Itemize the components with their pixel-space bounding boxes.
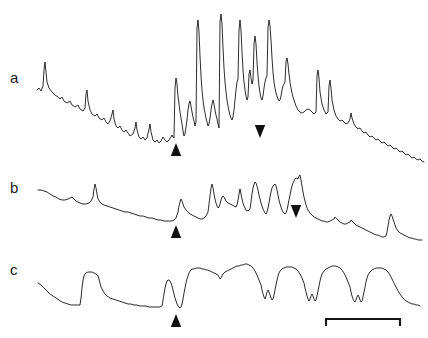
figure-root: a b c xyxy=(0,0,428,338)
panel-label-b: b xyxy=(10,180,18,195)
trace-canvas xyxy=(0,0,428,338)
panel-label-a: a xyxy=(10,70,18,85)
panel-label-c: c xyxy=(10,262,18,277)
figure-background xyxy=(0,0,428,338)
